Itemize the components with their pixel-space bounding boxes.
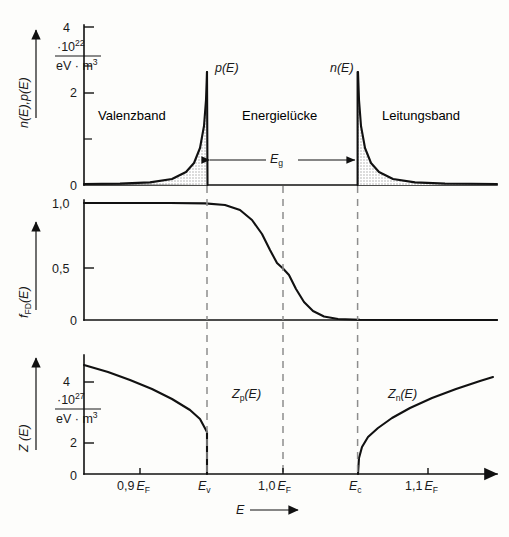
middle-ytick-05: 0,5 [52,262,69,276]
panel-bottom: Z (E) 4 ·1027 eV · m3 2 0 Zp(E) Zn(E) [17,355,497,483]
p-of-E-edge [207,72,208,185]
middle-y-axis-label: fFD(E) [17,286,33,318]
bottom-y-axis-label: Z (E) [17,424,31,453]
panel-top: n(E),p(E) 4 ·1022 eV · m3 2 0 p(E) n(E) [17,21,497,193]
region-leitungsband: Leitungsband [382,108,460,123]
n-of-E-curve [358,72,497,184]
n-of-E-label: n(E) [330,61,354,75]
region-energieluecke: Energielücke [242,108,317,123]
p-of-E-label: p(E) [214,61,239,75]
p-of-E-curve [84,72,207,184]
Zp-of-E-label: Zp(E) [231,387,261,403]
middle-ytick-1: 1,0 [52,197,69,211]
xlabel-Ec: Ec [349,479,362,495]
xlabel-10EF: 1,0EF [258,479,291,495]
middle-ytick-0: 0 [70,314,77,328]
Zp-of-E-curve [84,365,207,474]
region-valenzband: Valenzband [98,108,166,123]
xlabel-11EF: 1,1EF [405,479,438,495]
panel-middle: fFD(E) 1,0 0,5 0 [17,197,497,328]
top-unit-numerator: ·1022 [57,38,85,54]
top-ytick-2: 2 [70,86,77,100]
n-of-E-fill [358,72,498,185]
top-ytick-0: 0 [70,179,77,193]
bottom-ytick-0: 0 [70,469,77,483]
bottom-ytick-4: 4 [63,375,70,389]
x-axis-ticks: 0,9EF Ev 1,0EF Ec 1,1EF E [117,468,438,517]
bottom-unit-denominator: eV · m3 [56,410,98,426]
figure-caption [0,523,509,537]
semiconductor-band-diagram: n(E),p(E) 4 ·1022 eV · m3 2 0 p(E) n(E) [0,0,509,537]
x-axis-title: E [236,503,245,517]
Zn-of-E-curve [358,377,493,474]
marker-lines [207,186,358,472]
bottom-unit-numerator: ·1027 [57,391,85,407]
xlabel-Ev: Ev [198,479,211,495]
xlabel-09EF: 0,9EF [117,479,150,495]
Zn-of-E-label: Zn(E) [387,387,417,403]
fermi-dirac-curve [84,203,497,320]
top-unit-denominator: eV · m3 [56,57,98,73]
top-ytick-4: 4 [63,21,70,35]
top-y-axis-label: n(E),p(E) [17,77,31,128]
figure-root: n(E),p(E) 4 ·1022 eV · m3 2 0 p(E) n(E) [0,0,509,537]
bottom-ytick-2: 2 [70,436,77,450]
